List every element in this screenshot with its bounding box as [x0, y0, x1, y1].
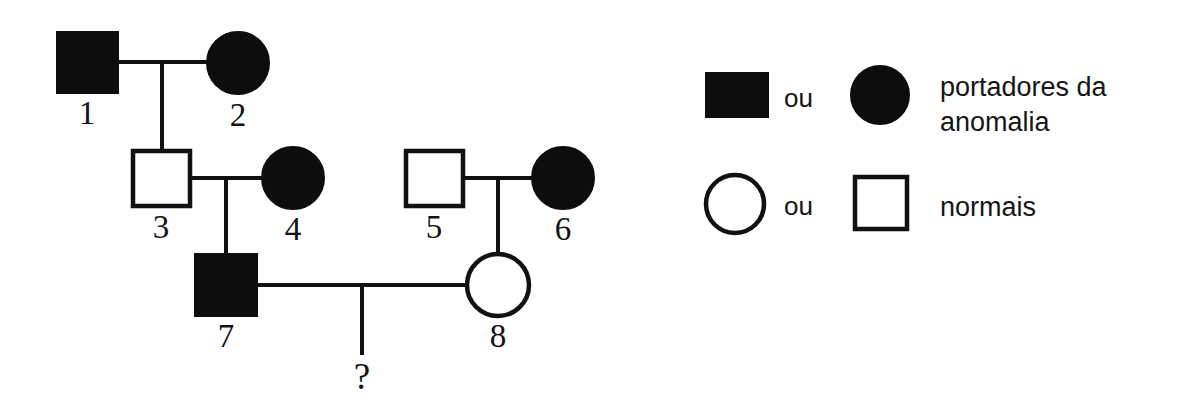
individual-3[interactable]: 3 [133, 151, 190, 245]
individual-4-symbol-circle-filled[interactable] [262, 147, 324, 209]
legend-open-square-icon [855, 177, 907, 229]
individual-6[interactable]: 6 [532, 147, 594, 247]
legend: ou portadores da anomalia ou normais [706, 66, 1108, 233]
individual-1-symbol-square-filled[interactable] [57, 32, 118, 93]
legend-filled-square-icon [706, 73, 768, 117]
individual-6-label: 6 [555, 211, 572, 247]
individual-5-symbol-square-open[interactable] [406, 151, 463, 206]
individual-1[interactable]: 1 [57, 32, 118, 131]
individual-2-label: 2 [230, 97, 247, 133]
legend-connector-affected: ou [784, 83, 813, 113]
individual-2[interactable]: 2 [207, 32, 269, 133]
individual-5-label: 5 [426, 209, 443, 245]
legend-open-circle-icon [706, 175, 764, 233]
mating-3x4 [190, 178, 263, 254]
individual-3-label: 3 [153, 209, 170, 245]
legend-connector-normal: ou [784, 191, 813, 221]
pedigree-figure: 1 2 3 4 5 6 [0, 0, 1191, 406]
individual-5[interactable]: 5 [406, 151, 463, 245]
individual-3-symbol-square-open[interactable] [133, 151, 190, 206]
legend-affected-label-line1: portadores da [940, 72, 1108, 102]
individual-7-label: 7 [218, 318, 235, 354]
individual-8-label: 8 [490, 318, 507, 354]
individual-7[interactable]: 7 [195, 254, 257, 354]
individual-7-symbol-square-filled[interactable] [195, 254, 257, 316]
individual-8[interactable]: 8 [467, 254, 529, 354]
mating-5x6 [462, 178, 534, 256]
mating-1x2 [117, 62, 208, 151]
individual-4[interactable]: 4 [262, 147, 324, 247]
individual-8-symbol-circle-open[interactable] [467, 254, 529, 316]
legend-affected-label-line2: anomalia [940, 107, 1051, 137]
legend-filled-circle-icon [851, 66, 909, 124]
individual-4-label: 4 [285, 211, 302, 247]
individual-6-symbol-circle-filled[interactable] [532, 147, 594, 209]
individual-1-label: 1 [79, 95, 96, 131]
mating-7x8 [257, 285, 467, 355]
unknown-child[interactable]: ? [354, 356, 370, 397]
legend-normal-label: normais [940, 192, 1036, 222]
pedigree-canvas: 1 2 3 4 5 6 [0, 0, 1191, 406]
legend-row-affected: ou portadores da anomalia [706, 66, 1108, 137]
unknown-child-question-mark[interactable]: ? [354, 356, 370, 397]
individual-2-symbol-circle-filled[interactable] [207, 32, 269, 94]
legend-row-normal: ou normais [706, 175, 1036, 233]
